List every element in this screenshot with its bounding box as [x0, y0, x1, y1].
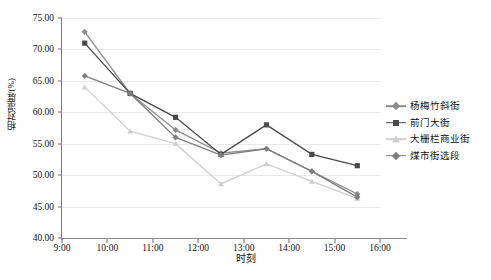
y-tick-label: 60.00 [10, 107, 54, 117]
x-tick-label: 12:00 [178, 243, 218, 253]
plot-area [62, 18, 380, 238]
x-tick-label: 16:00 [360, 243, 400, 253]
x-tick-mark [107, 239, 108, 243]
data-point [82, 73, 88, 79]
series-1 [82, 41, 360, 169]
series-line [85, 76, 358, 197]
data-point [309, 152, 314, 157]
legend-marker-icon [386, 133, 406, 145]
data-point [264, 122, 269, 127]
x-tick-label: 14:00 [269, 243, 309, 253]
legend-label: 前门大街 [410, 117, 450, 129]
data-point [309, 168, 315, 174]
y-axis-line [61, 18, 62, 240]
x-tick-label: 15:00 [315, 243, 355, 253]
x-tick-mark [334, 239, 335, 243]
x-tick-mark [198, 239, 199, 243]
series-2 [82, 84, 361, 201]
series-line [85, 32, 358, 194]
x-tick-label: 13:00 [224, 243, 264, 253]
legend-item-1[interactable]: 前门大街 [386, 116, 470, 130]
data-point [173, 115, 178, 120]
y-tick-label: 55.00 [10, 139, 54, 149]
x-tick-label: 10:00 [87, 243, 127, 253]
x-tick-mark [289, 239, 290, 243]
relative-humidity-line-chart: 相对湿度/(%) 时刻 40.0045.0050.0055.0060.0065.… [0, 0, 491, 280]
legend-label: 杨梅竹斜街 [410, 100, 460, 112]
legend-item-3[interactable]: 煤市街选段 [386, 149, 470, 163]
y-tick-label: 70.00 [10, 44, 54, 54]
legend: 杨梅竹斜街前门大街大栅栏商业街煤市街选段 [386, 99, 470, 163]
legend-label: 大栅栏商业街 [410, 133, 470, 145]
data-point [355, 163, 360, 168]
data-point [263, 161, 269, 166]
series-0 [82, 29, 361, 197]
data-point [82, 41, 87, 46]
y-tick-label: 50.00 [10, 170, 54, 180]
series-layer [62, 18, 380, 238]
y-tick-label: 65.00 [10, 76, 54, 86]
legend-marker-icon [386, 117, 406, 129]
data-point [82, 84, 88, 89]
y-tick-label: 40.00 [10, 233, 54, 243]
legend-item-0[interactable]: 杨梅竹斜街 [386, 99, 470, 113]
x-tick-label: 11:00 [133, 243, 173, 253]
legend-item-2[interactable]: 大栅栏商业街 [386, 132, 470, 146]
x-tick-mark [243, 239, 244, 243]
y-tick-label: 75.00 [10, 13, 54, 23]
x-axis-line [61, 238, 407, 239]
y-tick-label: 45.00 [10, 202, 54, 212]
legend-marker-icon [386, 100, 406, 112]
series-line [85, 43, 358, 166]
x-tick-label: 9:00 [42, 243, 82, 253]
legend-marker-icon [386, 150, 406, 162]
data-point [263, 146, 269, 152]
x-tick-mark [152, 239, 153, 243]
legend-label: 煤市街选段 [410, 150, 460, 162]
x-tick-mark [380, 239, 381, 243]
